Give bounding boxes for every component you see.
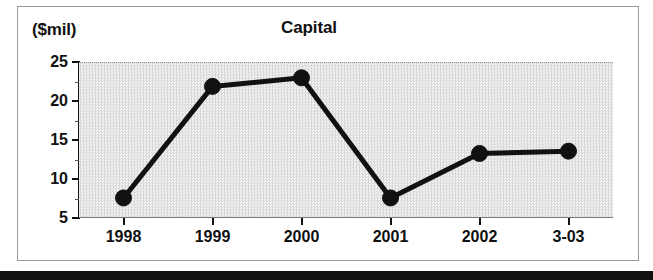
x-tick-mark [479,218,481,225]
y-tick-label: 10 [0,170,68,188]
data-point-marker [472,145,488,161]
series-plot [79,63,613,219]
x-tick-mark [301,218,303,225]
data-point-marker [561,143,577,159]
x-tick-mark [568,218,570,225]
y-tick-label: 20 [0,92,68,110]
x-tick-mark [390,218,392,225]
chart-title: Capital [0,18,653,38]
y-tick-label: 15 [0,131,68,149]
y-tick-mark [72,178,79,180]
x-tick-label: 1999 [168,228,258,246]
data-point-marker [294,70,310,86]
y-tick-label: 5 [0,209,68,227]
page-edge-bar [0,271,653,280]
y-tick-mark [72,139,79,141]
y-tick-mark [72,61,79,63]
x-tick-mark [123,218,125,225]
capital-line-chart-figure: ($mil) Capital 510152025 199819992000200… [0,0,653,280]
x-tick-label: 2002 [435,228,525,246]
y-tick-mark [72,100,79,102]
data-point-marker [116,190,132,206]
x-tick-label: 1998 [79,228,169,246]
x-tick-label: 3-03 [524,228,614,246]
capital-series-line [124,78,569,198]
x-tick-label: 2001 [346,228,436,246]
data-point-marker [383,190,399,206]
x-tick-mark [212,218,214,225]
y-tick-mark [72,217,79,219]
x-tick-label: 2000 [257,228,347,246]
plot-area [79,62,613,218]
y-tick-label: 25 [0,53,68,71]
chart-title-text: Capital [281,18,337,38]
data-point-marker [205,78,221,94]
